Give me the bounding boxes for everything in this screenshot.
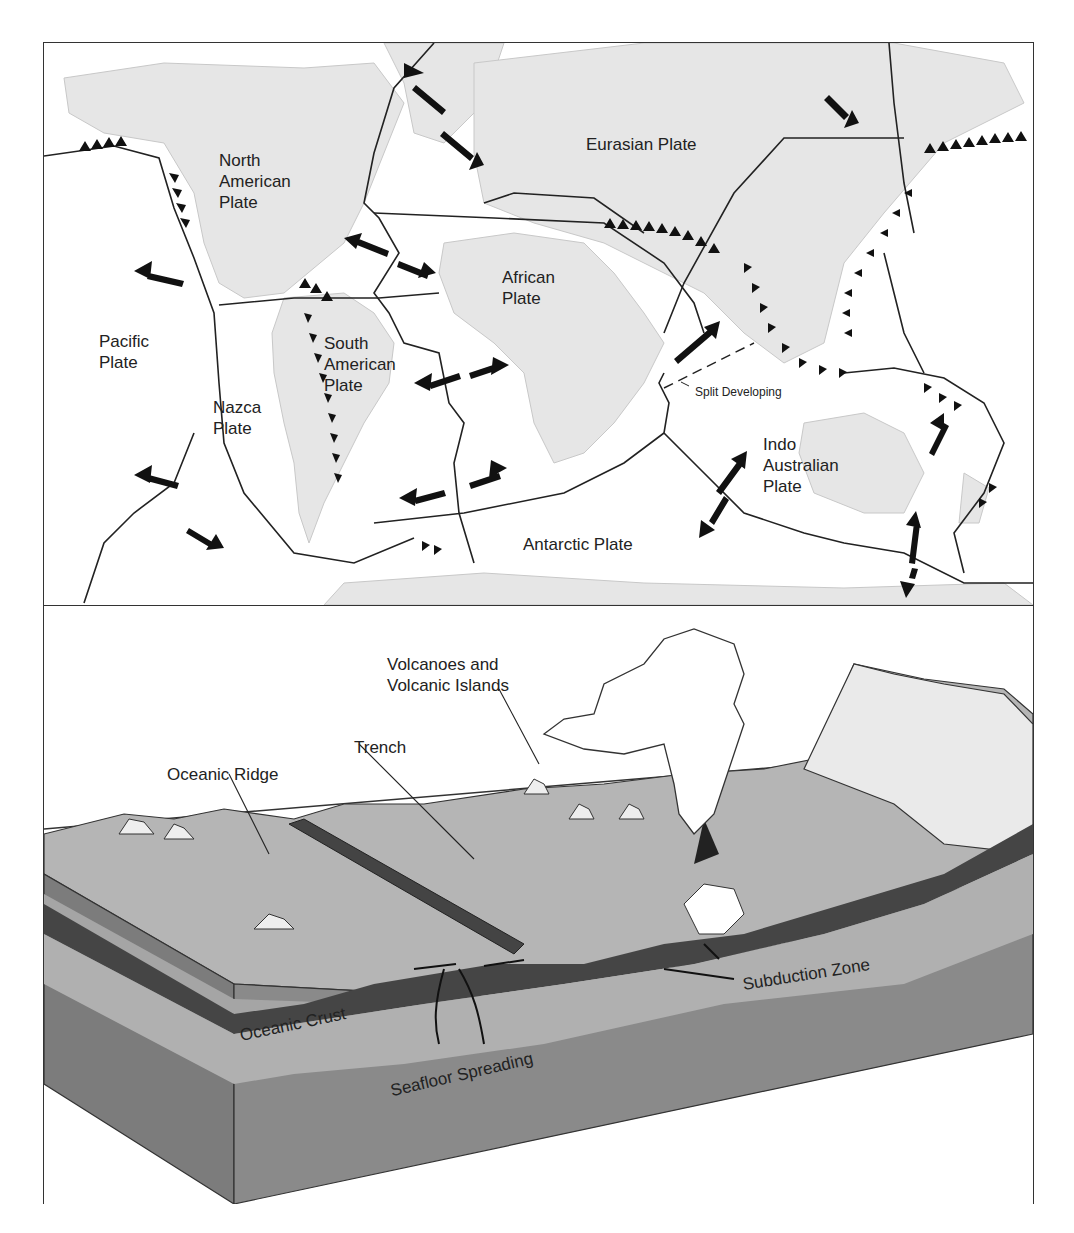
cross-section-graphic	[44, 604, 1033, 1204]
plate-map: NorthAmericanPlate Eurasian Plate Africa…	[43, 42, 1034, 606]
label-antarctic-plate: Antarctic Plate	[523, 534, 633, 555]
label-eurasian-plate: Eurasian Plate	[586, 134, 697, 155]
label-african-plate: AfricanPlate	[502, 267, 555, 309]
label-north-american-plate: NorthAmericanPlate	[219, 150, 291, 213]
label-trench: Trench	[354, 737, 406, 758]
label-nazca-plate: NazcaPlate	[213, 397, 261, 439]
continents	[64, 43, 1033, 605]
label-south-american-plate: SouthAmericanPlate	[324, 333, 396, 396]
label-split-developing: Split Developing	[695, 382, 782, 403]
label-volcanoes: Volcanoes andVolcanic Islands	[387, 654, 509, 696]
label-oceanic-ridge: Oceanic Ridge	[167, 764, 279, 785]
split-pointer-arrow	[681, 382, 689, 386]
block-diagram: Volcanoes andVolcanic Islands Trench Oce…	[43, 604, 1034, 1204]
world-map-graphic	[44, 43, 1033, 605]
label-indo-australian-plate: IndoAustralianPlate	[763, 434, 839, 497]
label-pacific-plate: PacificPlate	[99, 331, 149, 373]
